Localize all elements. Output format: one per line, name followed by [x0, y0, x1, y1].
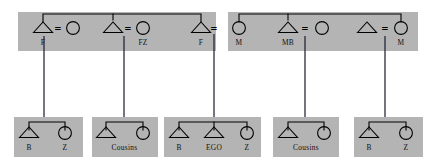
mothers-side-box [228, 12, 418, 51]
ego-box: BEGOZ [164, 117, 261, 157]
ego-box-label-1: EGO [206, 143, 222, 152]
fathers-side-box-background [18, 12, 216, 51]
fathers-side-box-marriage-sign-1: = [125, 22, 132, 36]
mothers-side-box-label-1: MB [282, 38, 294, 47]
kinship-diagram: FFZF==MMBM===BZCousinsBEGOZCousinsBZ [0, 0, 427, 167]
ego-box-label-2: Z [245, 143, 250, 152]
mothers-side-box-background [228, 12, 418, 51]
fathers-sister-children-box: Cousins [92, 117, 158, 157]
mothers-brother-children-box-group-label: Cousins [293, 143, 319, 152]
fathers-side-box-label-3: FZ [138, 38, 147, 47]
mothers-side-box-label-4: M [398, 38, 405, 47]
mothers-side-box-marriage-sign-0: = [302, 22, 309, 36]
ego-siblings-left-box-label-0: B [26, 143, 31, 152]
ego-siblings-right-box-label-1: Z [404, 143, 409, 152]
ego-siblings-right-box: BZ [354, 117, 423, 157]
ego-siblings-right-box-label-0: B [366, 143, 371, 152]
fathers-side-box-label-4: F [199, 38, 203, 47]
fathers-sister-children-box-group-label: Cousins [112, 143, 138, 152]
ego-box-label-0: B [176, 143, 181, 152]
mothers-side-box-marriage-sign-1: = [382, 22, 389, 36]
central-marriage-sign: = [211, 22, 218, 36]
ego-siblings-left-box: BZ [14, 117, 83, 157]
fathers-side-box-marriage-sign-0: = [55, 22, 62, 36]
fathers-side-box [18, 12, 216, 51]
ego-siblings-left-box-label-1: Z [63, 143, 68, 152]
mothers-brother-children-box: Cousins [273, 117, 339, 157]
mothers-side-box-label-0: M [236, 38, 243, 47]
